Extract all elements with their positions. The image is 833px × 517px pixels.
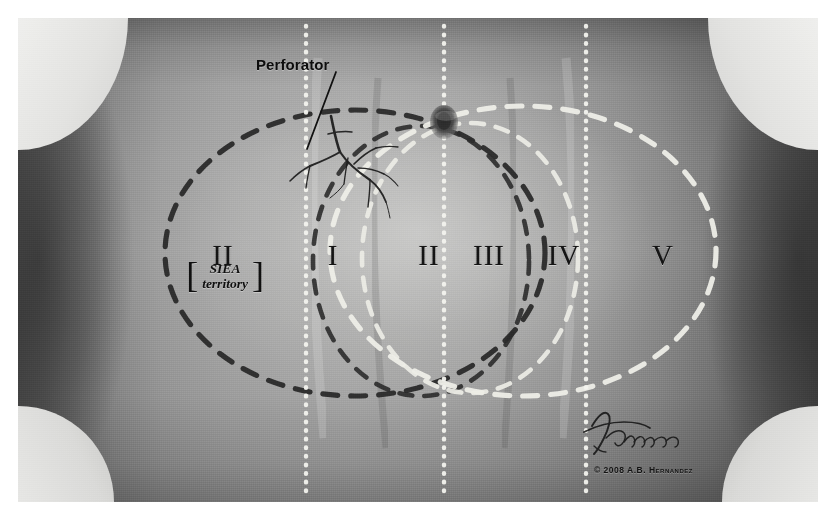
figure-frame: Perforator II I II III IV V [ SIEA terri…: [0, 0, 833, 517]
illustration-photo: Perforator II I II III IV V [ SIEA terri…: [18, 18, 818, 502]
film-grain-texture: [18, 18, 818, 502]
